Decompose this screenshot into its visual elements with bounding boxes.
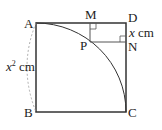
right-angle-m [90, 23, 96, 29]
right-angle-n [120, 36, 126, 42]
label-n: N [128, 39, 138, 54]
label-c: C [128, 105, 137, 120]
label-m: M [85, 7, 97, 22]
label-b: B [24, 105, 33, 120]
label-dn: x cm [128, 25, 154, 40]
label-p: P [80, 38, 87, 53]
arc-ac [36, 23, 126, 112]
square-abcd [36, 23, 126, 112]
label-a: A [24, 16, 34, 31]
label-side: x2 cm [5, 59, 35, 74]
label-d: D [128, 10, 137, 25]
square-diagram: A B C D M N P x2 cm x cm [0, 0, 162, 130]
